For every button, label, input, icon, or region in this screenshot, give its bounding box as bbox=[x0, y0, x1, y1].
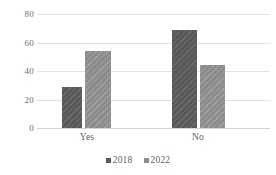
legend-swatch-icon-2022 bbox=[144, 158, 149, 163]
y-axis-tick-80: 80 bbox=[0, 9, 34, 19]
bars-layer bbox=[37, 14, 270, 128]
chart-legend: 2018 2022 bbox=[0, 152, 276, 168]
x-axis-category-labels: Yes No bbox=[37, 131, 270, 149]
y-axis-tick-60: 60 bbox=[0, 38, 34, 48]
legend-label-2018: 2018 bbox=[113, 155, 133, 166]
bar-yes-2018 bbox=[62, 87, 82, 128]
bar-chart: 0 20 40 60 80 Yes No 2018 bbox=[0, 0, 276, 175]
y-axis-tick-labels: 0 20 40 60 80 bbox=[0, 14, 34, 128]
bar-no-2022 bbox=[200, 65, 225, 128]
bar-yes-2022 bbox=[85, 51, 111, 128]
gridline-baseline-0 bbox=[37, 128, 270, 129]
y-axis-tick-20: 20 bbox=[0, 95, 34, 105]
legend-item-2022: 2022 bbox=[144, 155, 171, 166]
x-axis-label-no: No bbox=[167, 131, 229, 143]
bar-no-2018 bbox=[172, 30, 197, 128]
plot-area: 0 20 40 60 80 Yes No bbox=[0, 0, 276, 150]
legend-label-2022: 2022 bbox=[151, 155, 171, 166]
y-axis-tick-0: 0 bbox=[0, 123, 34, 133]
x-axis-label-yes: Yes bbox=[56, 131, 118, 143]
legend-item-2018: 2018 bbox=[106, 155, 133, 166]
legend-swatch-icon-2018 bbox=[106, 158, 111, 163]
y-axis-tick-40: 40 bbox=[0, 66, 34, 76]
